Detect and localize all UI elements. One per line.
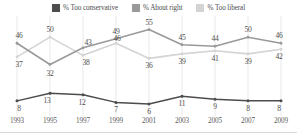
data-label: 41 xyxy=(211,54,218,63)
x-tick-2001: 2001 xyxy=(142,117,156,125)
data-point xyxy=(280,42,283,45)
data-label: 11 xyxy=(179,99,186,108)
data-point xyxy=(16,42,19,45)
data-label: 8 xyxy=(277,104,281,113)
data-label: 42 xyxy=(275,52,282,61)
data-point xyxy=(148,28,151,31)
data-point xyxy=(247,52,250,55)
x-tick-1997: 1997 xyxy=(76,117,90,125)
legend-swatch-about-right xyxy=(132,4,140,12)
x-tick-2009: 2009 xyxy=(274,117,288,125)
data-label: 37 xyxy=(15,60,22,69)
data-point xyxy=(280,48,283,51)
data-label: 38 xyxy=(82,58,89,67)
data-label: 39 xyxy=(244,57,251,66)
data-point xyxy=(49,36,52,39)
legend-swatch-too-conservative xyxy=(52,4,60,12)
data-point xyxy=(247,99,250,102)
data-label: 43 xyxy=(84,38,91,47)
data-point xyxy=(214,45,217,48)
data-point xyxy=(181,43,184,46)
data-point xyxy=(16,99,19,102)
data-label: 13 xyxy=(43,96,50,105)
data-label: 50 xyxy=(46,25,53,34)
data-point xyxy=(82,93,85,96)
data-point xyxy=(49,63,52,66)
legend-item-2[interactable]: % Too liberal xyxy=(196,4,245,12)
legend-label-2: % Too liberal xyxy=(207,4,245,12)
x-tick-2005: 2005 xyxy=(208,117,222,125)
x-tick-2003: 2003 xyxy=(175,117,189,125)
data-label: 32 xyxy=(46,69,53,78)
data-point xyxy=(148,57,151,60)
data-point xyxy=(148,102,151,105)
data-label: 55 xyxy=(145,18,152,27)
data-point xyxy=(181,95,184,98)
x-tick-2007: 2007 xyxy=(241,117,255,125)
data-label: 8 xyxy=(246,104,250,113)
data-label: 6 xyxy=(147,107,151,116)
data-point xyxy=(181,52,184,55)
data-label: 46 xyxy=(15,31,22,40)
data-label: 8 xyxy=(17,104,21,113)
data-label: 12 xyxy=(78,98,85,107)
chart-container: % Too conservative% About right% Too lib… xyxy=(0,0,297,138)
legend-swatch-too-liberal xyxy=(196,4,204,12)
data-point xyxy=(82,54,85,57)
data-label: 44 xyxy=(211,34,218,43)
data-label: 39 xyxy=(178,57,185,66)
data-label: 46 xyxy=(113,34,120,43)
data-label: 7 xyxy=(114,105,118,114)
data-point xyxy=(115,101,118,104)
data-point xyxy=(214,49,217,52)
chart-legend: % Too conservative% About right% Too lib… xyxy=(0,0,297,16)
x-tick-1999: 1999 xyxy=(109,117,123,125)
data-label: 36 xyxy=(145,61,152,70)
x-tick-1995: 1995 xyxy=(43,117,57,125)
data-label: 45 xyxy=(178,33,185,42)
data-point xyxy=(16,55,19,58)
data-point xyxy=(82,46,85,49)
legend-label-0: % Too conservative xyxy=(63,4,118,12)
data-point xyxy=(280,99,283,102)
legend-item-1[interactable]: % About right xyxy=(132,4,182,12)
data-point xyxy=(214,98,217,101)
x-tick-1993: 1993 xyxy=(10,117,24,125)
data-label: 50 xyxy=(244,25,251,34)
data-point xyxy=(247,36,250,39)
data-point xyxy=(49,92,52,95)
bottom-rule xyxy=(0,132,297,133)
legend-item-0[interactable]: % Too conservative xyxy=(52,4,118,12)
legend-label-1: % About right xyxy=(143,4,182,12)
data-label: 9 xyxy=(213,102,217,111)
x-axis: 199319951997199920012003200520072009 xyxy=(0,117,297,131)
data-label: 46 xyxy=(275,31,282,40)
